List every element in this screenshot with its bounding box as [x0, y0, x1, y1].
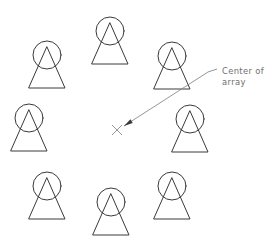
element-bottom-right-circle [158, 172, 186, 200]
figure-canvas: Center of array [0, 0, 275, 247]
array-diagram: Center of array [0, 0, 275, 247]
element-bottom-left-triangle [29, 178, 65, 219]
element-top-center-triangle [92, 23, 128, 64]
element-bottom-center-circle [97, 188, 125, 216]
element-top-left-circle [33, 41, 61, 69]
element-bottom-center [93, 188, 129, 235]
element-top-left [29, 41, 65, 88]
center-annotation-group: Center of array [112, 66, 265, 135]
element-middle-right [172, 105, 208, 152]
annotation-label-line1: Center of [222, 66, 265, 76]
element-top-center [92, 17, 128, 64]
element-bottom-left-circle [33, 172, 61, 200]
leader-line [124, 69, 217, 126]
element-top-center-circle [96, 17, 124, 45]
element-middle-left-circle [15, 104, 43, 132]
element-middle-right-triangle [172, 111, 208, 152]
element-top-left-triangle [29, 47, 65, 88]
element-middle-left [11, 104, 47, 151]
element-top-right-circle [158, 42, 186, 70]
element-top-right [154, 42, 190, 89]
center-cross-icon [112, 125, 122, 135]
element-top-right-triangle [154, 48, 190, 89]
annotation-label-line2: array [222, 77, 246, 87]
element-bottom-right [154, 172, 190, 219]
element-middle-right-circle [176, 105, 204, 133]
element-bottom-left [29, 172, 65, 219]
element-bottom-center-triangle [93, 194, 129, 235]
element-middle-left-triangle [11, 110, 47, 151]
array-elements-group [11, 17, 208, 235]
arrow-head-icon [124, 119, 133, 126]
element-bottom-right-triangle [154, 178, 190, 219]
